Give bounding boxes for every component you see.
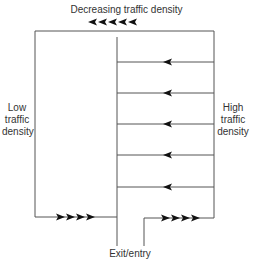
high-label-line: traffic	[214, 114, 252, 126]
low-density-label: Low traffic density	[2, 102, 32, 138]
top-direction-arrows	[88, 19, 137, 26]
exit-entry-label: Exit/entry	[100, 248, 160, 260]
bottom-right-path	[144, 218, 214, 246]
diagram-title: Decreasing traffic density	[0, 4, 253, 16]
high-label-line: density	[214, 126, 252, 138]
low-label-line: Low	[2, 102, 32, 114]
high-label-line: High	[214, 102, 252, 114]
low-label-line: density	[2, 126, 32, 138]
high-density-label: High traffic density	[214, 102, 252, 138]
low-label-line: traffic	[2, 114, 32, 126]
